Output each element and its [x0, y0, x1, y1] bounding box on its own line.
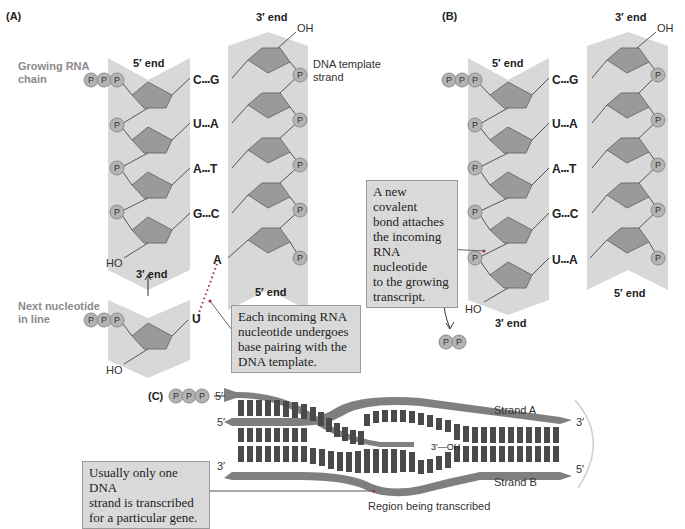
svg-text:P: P: [472, 163, 478, 173]
panel-b-base-pair: A•••T: [552, 162, 576, 176]
svg-text:P: P: [186, 391, 192, 401]
svg-text:P: P: [297, 205, 303, 215]
svg-text:P: P: [655, 205, 661, 215]
next-nucleotide-label: Next nucleotide in line: [18, 300, 100, 326]
panel-a-rna-3prime-end: 3′ end: [136, 268, 167, 280]
svg-text:P: P: [101, 75, 107, 85]
svg-text:P: P: [114, 120, 120, 130]
svg-text:P: P: [114, 75, 120, 85]
panel-a-base-pair: G•••C: [193, 207, 219, 221]
panel-c-label: (C): [148, 390, 163, 402]
svg-text:P: P: [297, 160, 303, 170]
svg-text:P: P: [297, 253, 303, 263]
strand-a-right-end: 3′: [576, 416, 584, 429]
panel-b-dna-5prime-end: 5′ end: [614, 287, 645, 299]
svg-text:P: P: [472, 120, 478, 130]
svg-text:P: P: [114, 315, 120, 325]
panel-b-base-pair: U•••A: [552, 253, 578, 267]
next-nucleotide-ho-group: HO: [106, 364, 123, 377]
svg-text:P: P: [655, 70, 661, 80]
svg-text:P: P: [459, 75, 465, 85]
svg-text:P: P: [297, 70, 303, 80]
panel-b-rna-5prime-end: 5′ end: [492, 57, 523, 69]
strand-a-left-end: 5′: [217, 416, 225, 429]
panel-b-dna-3prime-end: 3′ end: [615, 11, 646, 23]
panel-a-base-pair: U•••A: [193, 117, 219, 131]
strand-b-right-end: 5′: [576, 463, 584, 476]
svg-text:P: P: [655, 253, 661, 263]
svg-text:P: P: [456, 337, 462, 347]
panel-a-unpaired-dna-base: A: [213, 253, 222, 267]
svg-text:P: P: [472, 75, 478, 85]
panel-b-label: (B): [442, 10, 457, 22]
panel-a-ho-group: HO: [106, 257, 123, 270]
svg-text:P: P: [114, 207, 120, 217]
panel-b-base-pair: G•••C: [552, 207, 578, 221]
svg-text:P: P: [443, 337, 449, 347]
panel-a-base-pair: A•••T: [193, 162, 217, 176]
svg-text:P: P: [199, 391, 205, 401]
growing-rna-chain-label: Growing RNA chain: [18, 60, 90, 86]
svg-text:P: P: [114, 163, 120, 173]
panel-a-dna-3prime-end: 3′ end: [256, 11, 287, 23]
panel-a-incoming-pairing-dots: [197, 264, 217, 318]
svg-text:P: P: [446, 75, 452, 85]
panel-b-rna-3prime-end: 3′ end: [495, 317, 526, 329]
svg-text:P: P: [173, 391, 179, 401]
panel-b-base-pair: C•••G: [552, 73, 578, 87]
panel-c-callout: Usually only one DNA strand is transcrib…: [82, 461, 210, 529]
svg-text:P: P: [297, 115, 303, 125]
panel-b-base-pair: U•••A: [552, 117, 578, 131]
svg-text:P: P: [655, 160, 661, 170]
panel-b-ho-group: HO: [465, 303, 482, 316]
next-nucleotide-base: U: [192, 312, 201, 326]
panel-c-rna-5prime: 5′: [215, 390, 223, 403]
panel-a-base-pair: C•••G: [193, 73, 219, 87]
panel-a-callout: Each incoming RNA nucleotide undergoes b…: [231, 305, 361, 373]
strand-a-label: Strand A: [494, 404, 536, 417]
rna-3prime-oh: 3′—OH: [431, 441, 460, 454]
region-being-transcribed-label: Region being transcribed: [368, 500, 490, 513]
dna-template-strand-label: DNA template strand: [313, 58, 381, 84]
svg-text:P: P: [101, 315, 107, 325]
panel-a-rna-5prime-end: 5′ end: [133, 57, 164, 69]
svg-text:P: P: [472, 207, 478, 217]
panel-a-oh-group: OH: [297, 22, 314, 35]
svg-text:P: P: [472, 253, 478, 263]
strand-b-label: Strand B: [494, 476, 537, 489]
strand-b-left-end: 3′: [217, 460, 225, 473]
panel-b-oh-group: OH: [657, 22, 674, 35]
panel-a-dna-5prime-end: 5′ end: [255, 286, 286, 298]
panel-b-callout: A new covalent bond attaches the incomin…: [366, 180, 458, 308]
svg-text:P: P: [655, 115, 661, 125]
